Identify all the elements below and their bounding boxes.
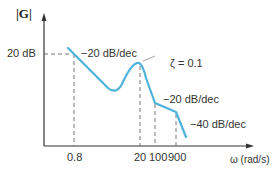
y-axis-arrow <box>42 13 47 21</box>
zeta-leader <box>143 56 155 61</box>
zeta-label: ζ = 0.1 <box>170 58 203 69</box>
y-axis-label: |G| <box>16 7 32 20</box>
slope-label-1: −20 dB/dec <box>81 48 137 59</box>
slope-label-2: −20 dB/dec <box>163 94 219 105</box>
y-tick-20db: 20 dB <box>7 48 36 59</box>
x-axis-arrow <box>246 144 254 149</box>
x-tick-100: 100 <box>149 152 167 163</box>
slope-label-3: −40 dB/dec <box>190 119 246 130</box>
bode-plot <box>0 0 276 173</box>
x-tick-20: 20 <box>134 152 146 163</box>
x-tick-900: 900 <box>168 152 186 163</box>
x-axis-label: ω (rad/s) <box>230 155 269 165</box>
x-tick-0.8: 0.8 <box>67 152 82 163</box>
